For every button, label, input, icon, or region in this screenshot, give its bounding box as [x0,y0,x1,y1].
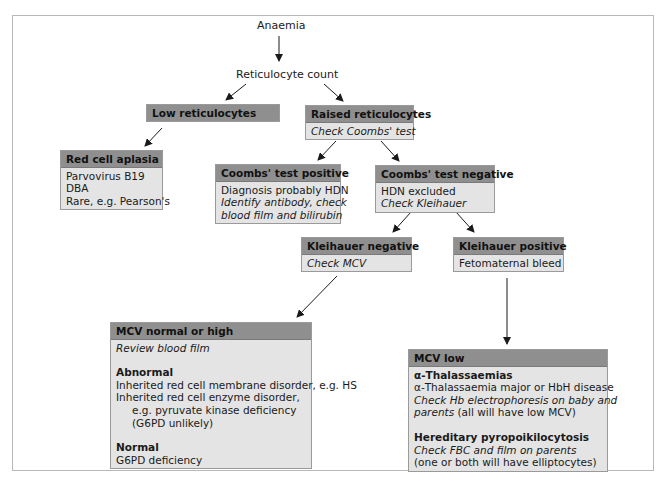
node-subheading: Abnormal [116,366,306,379]
node-line: Identify antibody, check [221,196,335,209]
node-line: Fetomaternal bleed [459,257,558,270]
node-anaemia: Anaemia [257,19,306,32]
node-line: Inherited red cell enzyme disorder, [116,391,306,404]
node-reticulocyte-count: Reticulocyte count [236,68,338,81]
arrow-raised-to-coombs-neg [381,141,399,161]
arrow-retic-to-low [226,84,246,100]
node-line: Check Coombs' test [311,125,408,138]
node-kleihauer-negative: Kleihauer negative Check MCV [301,237,412,272]
node-line: (G6PD unlikely) [116,417,306,430]
node-line: Check MCV [307,257,406,270]
node-line: Parvovirus B19 [66,170,157,183]
node-low-reticulocytes: Low reticulocytes [146,104,280,122]
node-line: HDN excluded [381,185,489,198]
node-mcv-normal-or-high: MCV normal or high Review blood film Abn… [110,322,312,469]
node-title: Kleihauer positive [454,238,563,255]
arrow-low-to-aplasia [145,128,162,146]
node-line: parents [414,406,454,418]
node-mcv-low: MCV low α-Thalassaemias α-Thalassaemia m… [408,349,608,472]
node-line: DBA [66,182,157,195]
node-title: Low reticulocytes [147,105,279,121]
node-line: (all will have low MCV) [454,406,576,418]
arrow-coombs-neg-to-klh-neg [393,212,411,232]
node-line: Diagnosis probably HDN [221,184,335,197]
node-title: Raised reticulocytes [306,106,413,123]
arrow-retic-to-raised [324,84,343,101]
node-subheading: α-Thalassaemias [414,369,602,382]
node-line: α-Thalassaemia major or HbH disease [414,381,602,394]
node-subheading: Normal [116,441,306,454]
arrow-klh-neg-to-mcv-normal [297,276,337,317]
node-title: MCV normal or high [111,323,311,340]
node-title: MCV low [409,350,607,367]
node-line: Rare, e.g. Pearson's [66,195,157,208]
node-line: (one or both will have elliptocytes) [414,456,602,469]
arrow-coombs-neg-to-klh-pos [456,212,474,232]
node-kleihauer-positive: Kleihauer positive Fetomaternal bleed [453,237,564,272]
node-line: Check Hb electrophoresis on baby and [414,394,602,407]
node-subheading: Hereditary pyropoikilocytosis [414,431,602,444]
node-line: G6PD deficiency [116,454,306,467]
node-title: Coombs' test negative [376,166,494,183]
node-raised-reticulocytes: Raised reticulocytes Check Coombs' test [305,105,414,140]
node-coombs-positive: Coombs' test positive Diagnosis probably… [215,164,341,224]
node-red-cell-aplasia: Red cell aplasia Parvovirus B19 DBA Rare… [60,150,163,210]
node-coombs-negative: Coombs' test negative HDN excluded Check… [375,165,495,213]
node-title: Kleihauer negative [302,238,411,255]
node-line: blood film and bilirubin [221,209,335,222]
node-line: Review blood film [116,342,306,355]
arrow-raised-to-coombs-pos [318,141,336,160]
node-line: e.g. pyruvate kinase deficiency [116,404,306,417]
node-line: Inherited red cell membrane disorder, e.… [116,379,306,392]
node-title: Coombs' test positive [216,165,340,182]
node-title: Red cell aplasia [61,151,162,168]
node-line: Check FBC and film on parents [414,444,602,457]
node-line: Check Kleihauer [381,197,489,210]
